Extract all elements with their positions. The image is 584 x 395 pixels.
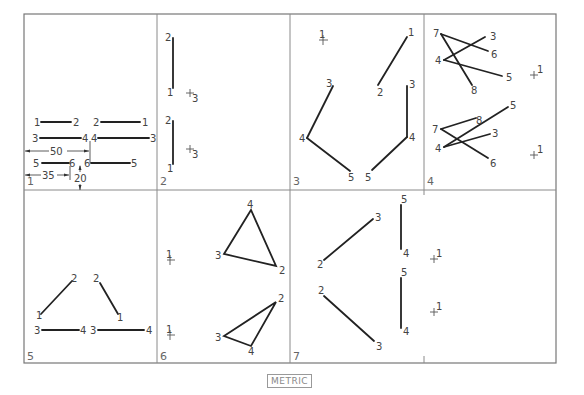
- panel-number-6: 6: [160, 350, 167, 363]
- segment-4-5-right: [372, 137, 407, 170]
- point-label: 3: [215, 250, 221, 261]
- dimension-label-20: 20: [74, 173, 87, 184]
- segment-1-2: [41, 281, 72, 314]
- point-label: 3: [492, 128, 498, 139]
- point-label: 3: [376, 341, 382, 352]
- point-label: 4: [82, 133, 88, 144]
- point-label: 2: [165, 32, 171, 43]
- point-label: 4: [91, 133, 97, 144]
- point-label: 1: [166, 249, 172, 260]
- point-label: 5: [506, 72, 512, 83]
- panel-6: 1 1 4 3 2 2 3 4: [166, 199, 285, 357]
- point-label: 1: [537, 64, 543, 75]
- point-label: 2: [377, 87, 383, 98]
- point-label: 3: [375, 212, 381, 223]
- panel-7: 3 2 2 3 5 4 5 4 1 1: [317, 194, 442, 352]
- panel-number-5: 5: [27, 350, 34, 363]
- point-label: 2: [317, 259, 323, 270]
- segment-2-3-top: [324, 219, 373, 260]
- segment-2-3-bottom: [324, 296, 374, 341]
- point-label: 1: [117, 312, 123, 323]
- point-label: 3: [34, 325, 40, 336]
- point-label: 1: [319, 29, 325, 40]
- point-label: 1: [167, 163, 173, 174]
- panel-number-3: 3: [293, 175, 300, 188]
- point-label: 2: [73, 117, 79, 128]
- point-label: 3: [192, 149, 198, 160]
- point-label: 2: [93, 273, 99, 284]
- panel-3: 1 1 2 3 4 5 3 4 5: [299, 27, 415, 183]
- panel-number-4: 4: [427, 175, 434, 188]
- point-label: 2: [165, 115, 171, 126]
- point-label: 4: [403, 248, 409, 259]
- segment-1-2: [378, 37, 407, 85]
- point-label: 4: [247, 199, 253, 210]
- arrowhead: [64, 174, 69, 177]
- arrowhead: [79, 165, 82, 170]
- segment-3-4: [307, 86, 333, 138]
- point-label: 1: [166, 324, 172, 335]
- point-label: 6: [490, 158, 496, 169]
- point-label: 3: [32, 133, 38, 144]
- point-label: 2: [71, 273, 77, 284]
- panel-2: 2 1 3 2 1 3: [165, 32, 198, 174]
- point-label: 6: [491, 49, 497, 60]
- point-label: 7: [433, 28, 439, 39]
- point-label: 1: [436, 248, 442, 259]
- point-label: 4: [409, 132, 415, 143]
- point-label: 4: [146, 325, 152, 336]
- arrowhead: [84, 150, 89, 153]
- point-label: 4: [299, 133, 305, 144]
- point-label: 2: [279, 265, 285, 276]
- panel-number-1: 1: [27, 175, 34, 188]
- point-label: 1: [34, 117, 40, 128]
- segment-4-5: [444, 60, 502, 76]
- segment-4-5: [444, 107, 508, 147]
- panel-5: 2 1 2 1 3 4 3 4: [34, 273, 152, 336]
- point-label: 1: [167, 87, 173, 98]
- point-label: 7: [432, 124, 438, 135]
- point-label: 5: [131, 158, 137, 169]
- point-label: 4: [80, 325, 86, 336]
- point-label: 3: [490, 31, 496, 42]
- panel-1: 1 2 2 1 3 4 4 3 50 5 6 6 5 35: [25, 117, 156, 190]
- dimension-label-50: 50: [50, 146, 63, 157]
- point-label: 5: [510, 100, 516, 111]
- segment-2-1-right: [100, 283, 118, 314]
- point-label: 5: [348, 172, 354, 183]
- point-label: 5: [365, 172, 371, 183]
- point-label: 1: [142, 117, 148, 128]
- triangle-top: [224, 210, 276, 266]
- segment-4-5: [307, 138, 350, 171]
- point-label: 3: [192, 93, 198, 104]
- point-label: 4: [403, 326, 409, 337]
- panel-4: 7 3 6 4 5 8 1 5 8 7 3 4 6 1: [432, 28, 543, 169]
- point-label: 4: [435, 143, 441, 154]
- point-label: 5: [401, 267, 407, 278]
- point-label: 1: [408, 27, 414, 38]
- arrowhead: [25, 150, 30, 153]
- point-label: 3: [90, 325, 96, 336]
- panel-number-2: 2: [160, 175, 167, 188]
- metric-unit-badge: METRIC: [267, 374, 312, 388]
- point-label: 2: [278, 293, 284, 304]
- point-label: 3: [150, 133, 156, 144]
- point-label: 5: [33, 158, 39, 169]
- point-label: 1: [436, 301, 442, 312]
- point-label: 3: [326, 78, 332, 89]
- point-label: 4: [435, 55, 441, 66]
- triangle-bottom: [224, 302, 276, 346]
- point-label: 8: [476, 115, 482, 126]
- point-label: 2: [318, 285, 324, 296]
- point-label: 1: [537, 144, 543, 155]
- point-label: 2: [93, 117, 99, 128]
- segment-7-8: [441, 118, 476, 129]
- point-label: 8: [471, 85, 477, 96]
- point-label: 1: [36, 310, 42, 321]
- arrowhead: [79, 185, 82, 190]
- dimension-label-35: 35: [42, 170, 55, 181]
- point-label: 3: [409, 79, 415, 90]
- point-label: 5: [401, 194, 407, 205]
- panel-number-7: 7: [293, 350, 300, 363]
- exercise-sheet-drawing: 5 1 2 3 4 6 7 1 2 2 1 3 4 4 3 50 5 6 6 5: [0, 0, 584, 395]
